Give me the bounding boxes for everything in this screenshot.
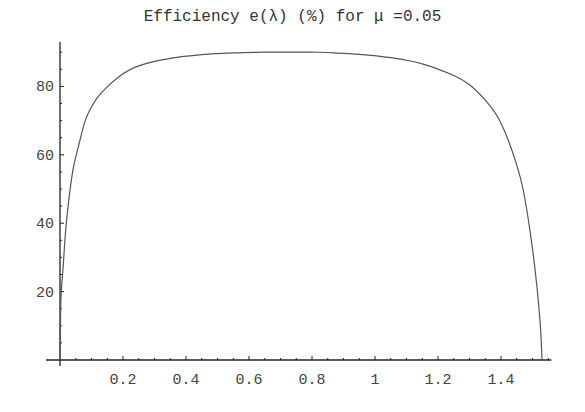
line-chart: 0.20.40.60.811.21.420406080 — [0, 0, 585, 412]
y-tick-label: 60 — [36, 148, 54, 165]
y-tick-label: 40 — [36, 216, 54, 233]
x-tick-label: 1.2 — [424, 372, 451, 389]
y-tick-label: 80 — [36, 79, 54, 96]
efficiency-curve — [60, 52, 542, 360]
axis-ticks — [60, 52, 548, 360]
x-tick-label: 0.4 — [172, 372, 199, 389]
x-tick-label: 0.6 — [235, 372, 262, 389]
x-tick-label: 1 — [370, 372, 379, 389]
x-tick-label: 0.2 — [109, 372, 136, 389]
x-tick-label: 0.8 — [298, 372, 325, 389]
y-tick-label: 20 — [36, 285, 54, 302]
x-tick-label: 1.4 — [487, 372, 514, 389]
tick-labels: 0.20.40.60.811.21.420406080 — [36, 79, 515, 389]
